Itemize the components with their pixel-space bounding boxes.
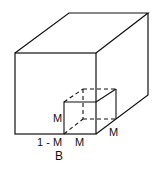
outer-cube-top-face [15, 13, 148, 53]
label-bottom-left-segment: 1 - M [37, 136, 62, 148]
subcube-top-right-edge [96, 89, 116, 102]
label-bottom-subcube-width: M [75, 136, 84, 148]
outer-cube-right-face [96, 13, 148, 134]
label-depth: M [109, 126, 118, 138]
subcube-front-face [64, 102, 96, 134]
outer-cube [15, 13, 148, 134]
label-caption: B [55, 149, 63, 163]
label-subcube-height: M [53, 112, 62, 124]
cube-diagram: M 1 - M M M B [0, 0, 158, 171]
